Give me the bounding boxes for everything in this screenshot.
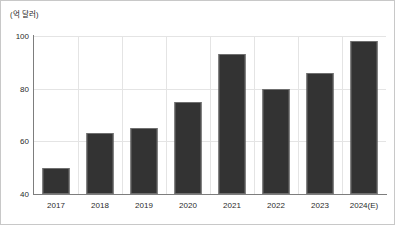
x-tick-label-2020: 2020 [179,201,197,210]
bar-2021[interactable] [219,54,246,194]
bar-2022[interactable] [263,89,290,194]
bar-slot [122,36,166,194]
y-tick-label-80: 80 [20,84,29,93]
y-tick-label-100: 100 [16,32,29,41]
bar-slot [298,36,342,194]
y-axis-unit-label: (억 달러) [10,8,39,19]
x-tick-label-2024(E): 2024(E) [350,201,378,210]
y-tick-label-60: 60 [20,137,29,146]
bar-slot [342,36,386,194]
x-tick-label-2017: 2017 [47,201,65,210]
bar-slot [166,36,210,194]
x-tick-label-2021: 2021 [223,201,241,210]
x-axis-line [33,194,387,195]
bar-2019[interactable] [131,128,158,194]
x-tick-label-2019: 2019 [135,201,153,210]
x-tick-label-2018: 2018 [91,201,109,210]
x-tick-label-2022: 2022 [267,201,285,210]
plot-area: 406080100 [34,36,386,194]
bar-2020[interactable] [175,102,202,194]
bar-slot [210,36,254,194]
bar-slot [254,36,298,194]
bar-2023[interactable] [307,73,334,194]
bar-chart: (억 달러) 406080100 20172018201920202021202… [0,0,395,225]
bar-2017[interactable] [43,168,70,194]
bar-2024(E)[interactable] [351,41,378,194]
bar-2018[interactable] [87,133,114,194]
y-tick-label-40: 40 [20,190,29,199]
bar-slot [78,36,122,194]
x-tick-label-2023: 2023 [311,201,329,210]
bar-slot [34,36,78,194]
